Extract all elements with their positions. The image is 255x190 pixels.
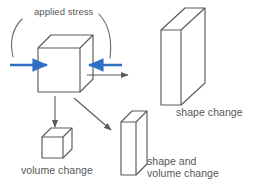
deformation-diagram: applied stress shape change volume chang… bbox=[0, 0, 255, 190]
shape-change-label: shape change bbox=[176, 106, 243, 118]
shape-and-volume-change-line2: volume change bbox=[147, 167, 219, 179]
flow-arrow-diagonal bbox=[74, 98, 111, 130]
volume-change-label: volume change bbox=[21, 164, 93, 176]
applied-stress-label: applied stress bbox=[34, 6, 93, 17]
applied-stress-arc bbox=[12, 14, 111, 58]
large-slab bbox=[161, 8, 205, 105]
shape-and-volume-change-line1: shape and bbox=[147, 155, 197, 167]
shape-and-volume-change-label: shape and volume change bbox=[147, 155, 219, 180]
original-cube bbox=[38, 35, 93, 92]
small-cube bbox=[42, 128, 72, 158]
medium-slab bbox=[121, 111, 147, 175]
